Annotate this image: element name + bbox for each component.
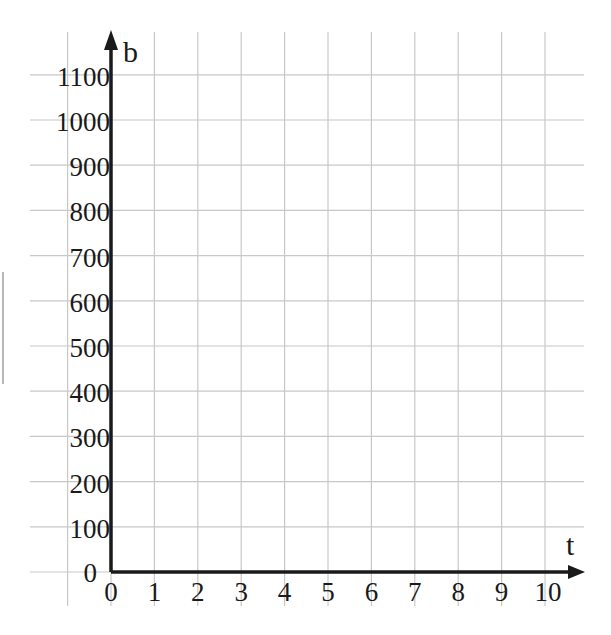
y-tick-label: 700 — [70, 243, 111, 273]
y-tick-label: 0 — [84, 558, 98, 588]
x-tick-labels: 012345678910 — [104, 577, 561, 607]
y-axis-label: b — [123, 35, 138, 68]
y-tick-label: 1000 — [56, 107, 110, 137]
y-tick-label: 1100 — [57, 62, 110, 92]
x-tick-label: 1 — [148, 577, 162, 607]
x-tick-label: 5 — [321, 577, 335, 607]
y-tick-label: 500 — [70, 333, 111, 363]
x-axis-label: t — [566, 528, 575, 561]
grid — [30, 32, 584, 606]
y-tick-label: 800 — [70, 197, 111, 227]
x-tick-label: 9 — [495, 577, 509, 607]
y-tick-label: 300 — [70, 423, 111, 453]
x-tick-label: 0 — [104, 577, 118, 607]
y-tick-label: 200 — [70, 469, 111, 499]
y-tick-label: 100 — [70, 514, 111, 544]
y-tick-label: 600 — [70, 288, 111, 318]
x-tick-label: 3 — [234, 577, 248, 607]
x-tick-label: 4 — [278, 577, 292, 607]
x-tick-label: 10 — [535, 577, 562, 607]
x-axis-arrow-icon — [568, 565, 585, 579]
y-axis-arrow-icon — [104, 30, 118, 50]
y-tick-label: 400 — [70, 378, 111, 408]
x-tick-label: 8 — [451, 577, 465, 607]
blank-graph: 012345678910 010020030040050060070080090… — [0, 0, 611, 635]
y-tick-labels: 010020030040050060070080090010001100 — [56, 62, 110, 588]
y-tick-label: 900 — [70, 152, 111, 182]
x-tick-label: 7 — [408, 577, 422, 607]
axes — [104, 30, 585, 579]
x-tick-label: 6 — [365, 577, 379, 607]
x-tick-label: 2 — [191, 577, 205, 607]
